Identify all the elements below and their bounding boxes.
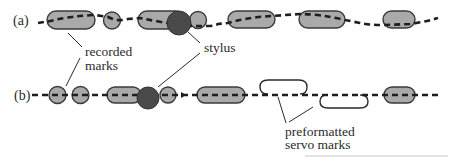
servo-marks-label-line2: servo marks <box>285 137 351 152</box>
stylus-b <box>137 87 159 109</box>
recorded-marks-label-line2: marks <box>85 58 118 73</box>
leader-line <box>289 107 313 122</box>
recorded-marks-a <box>47 11 415 29</box>
recorded-marks-label-line1: recorded <box>85 44 132 59</box>
stylus-a <box>167 11 191 35</box>
servo-marks-leaders <box>278 97 313 123</box>
diagram-canvas: (a) recorded marks stylus (b) <box>0 0 458 161</box>
recorded-marks-leaders <box>66 33 82 86</box>
leader-line <box>66 58 80 86</box>
row-b-label: (b) <box>14 88 31 104</box>
row-b: (b) <box>14 80 440 109</box>
leader-line <box>158 53 200 87</box>
stylus-leaders <box>158 32 200 87</box>
recorded-mark <box>47 11 95 29</box>
recording-track-diagram: (a) recorded marks stylus (b) <box>0 0 458 161</box>
recorded-mark <box>228 11 275 28</box>
leader-line <box>278 97 286 123</box>
row-a: (a) <box>13 11 438 35</box>
leader-line <box>188 32 200 43</box>
track-arrow-icon <box>181 92 186 98</box>
stylus-label: stylus <box>204 40 236 55</box>
servo-mark-lower <box>320 95 368 108</box>
recorded-mark <box>384 87 415 103</box>
row-a-label: (a) <box>13 13 29 29</box>
servo-mark-upper <box>260 80 307 94</box>
leader-line <box>68 33 82 47</box>
